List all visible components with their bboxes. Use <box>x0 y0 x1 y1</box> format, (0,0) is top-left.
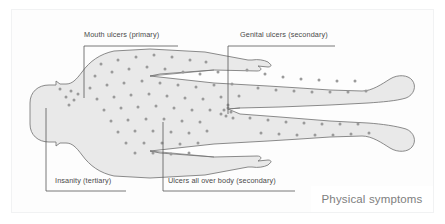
callout-label-mouth-ulcers: Mouth ulcers (primary) <box>84 31 159 38</box>
callout-label-ulcers-all-over-body: Ulcers all over body (secondary) <box>168 177 276 184</box>
body-silhouette <box>30 49 414 178</box>
diagram-page: Mouth ulcers (primary) Genital ulcers (s… <box>0 0 445 224</box>
callout-label-insanity: Insanity (tertiary) <box>55 177 111 184</box>
figure-caption: Physical symptoms <box>322 193 423 205</box>
caption-box: Physical symptoms <box>311 186 433 212</box>
callout-label-genital-ulcers: Genital ulcers (secondary) <box>240 31 328 38</box>
